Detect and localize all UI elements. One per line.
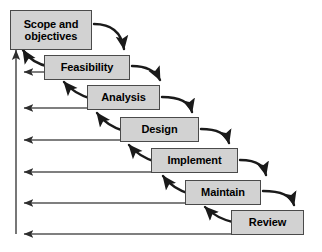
stage-box-review[interactable]: Review (231, 210, 304, 235)
stage-label-design: Design (139, 123, 179, 135)
arrow-design-to-implement (201, 129, 229, 143)
stage-box-analysis[interactable]: Analysis (87, 85, 160, 110)
stage-label-analysis: Analysis (99, 91, 147, 103)
forward-arrows (94, 24, 294, 205)
waterfall-diagram: Scope and objectives Feasibility Analysi… (0, 0, 322, 252)
stage-label-implement: Implement (165, 154, 223, 166)
stage-label-feasibility: Feasibility (59, 61, 116, 73)
arrow-implement-to-maintain (240, 160, 266, 175)
stage-box-maintain[interactable]: Maintain (185, 180, 261, 205)
stage-box-feasibility[interactable]: Feasibility (44, 55, 130, 80)
arrow-feasibility-to-analysis (132, 66, 160, 80)
arrow-analysis-to-design (162, 97, 192, 112)
arrow-maintain-to-review (263, 191, 294, 205)
arrow-scope-to-feasibility (94, 24, 124, 49)
stage-box-design[interactable]: Design (120, 117, 199, 142)
stage-box-scope-and-objectives[interactable]: Scope and objectives (10, 10, 92, 50)
stage-label-review: Review (247, 216, 288, 228)
stage-box-implement[interactable]: Implement (151, 148, 238, 173)
stage-label-scope-and-objectives: Scope and objectives (22, 18, 81, 43)
stage-label-maintain: Maintain (199, 186, 247, 198)
